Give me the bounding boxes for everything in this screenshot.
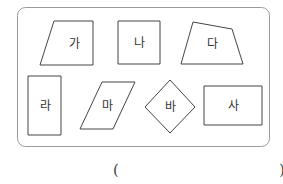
problem-figure: 가 나 다 라 마 바 사 ( ): [0, 0, 283, 184]
shape-label-ma: 마: [102, 100, 113, 112]
shape-label-ga: 가: [69, 38, 80, 50]
shape-label-sa: 사: [228, 100, 239, 112]
shape-label-na: 나: [134, 37, 145, 49]
answer-blank[interactable]: [125, 163, 275, 179]
answer-open-bracket: (: [113, 163, 119, 178]
shape-label-da: 다: [207, 38, 218, 50]
shapes-frame: [18, 8, 270, 147]
shape-label-ra: 라: [40, 100, 51, 112]
answer-close-bracket: ): [279, 163, 283, 178]
shape-label-ba: 바: [165, 101, 176, 113]
shape-ga-trapezoid: [40, 21, 93, 65]
